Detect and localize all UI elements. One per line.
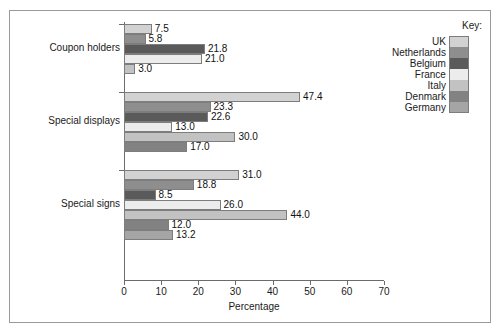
bar: [124, 112, 208, 122]
legend-item-label: Belgium: [410, 58, 449, 69]
legend-title: Key:: [422, 20, 482, 31]
x-axis-tick: [273, 281, 274, 285]
bar: [124, 122, 172, 132]
legend-color-swatch: [449, 80, 469, 91]
legend-color-swatch: [449, 36, 469, 47]
x-axis-tick: [161, 281, 162, 285]
bar-value-label: 47.4: [303, 91, 322, 102]
x-axis-tick-label: 20: [183, 286, 213, 297]
legend-item: Netherlands: [392, 47, 469, 58]
legend-item: France: [392, 69, 469, 80]
bar: [124, 34, 146, 44]
x-axis-tick: [310, 281, 311, 285]
x-axis-tick-label: 0: [109, 286, 139, 297]
bar: [124, 44, 205, 54]
category-label: Coupon holders: [0, 42, 120, 53]
bar-value-label: 13.2: [176, 229, 195, 240]
bar: [124, 170, 239, 180]
category-label: Special displays: [0, 115, 120, 126]
legend-item: Italy: [392, 80, 469, 91]
legend-color-swatch: [449, 102, 469, 113]
y-axis-tick: [119, 92, 124, 93]
legend-item-label: Denmark: [405, 91, 449, 102]
x-axis-title: Percentage: [124, 301, 384, 312]
x-axis-tick: [235, 281, 236, 285]
x-axis-tick: [124, 281, 125, 285]
legend-color-swatch: [449, 47, 469, 58]
bar-value-label: 31.0: [242, 169, 261, 180]
x-axis-tick-label: 30: [220, 286, 250, 297]
bar-value-label: 22.6: [211, 111, 230, 122]
bar-value-label: 3.0: [138, 63, 152, 74]
bar: [124, 220, 169, 230]
chart-page: Percentage 0102030405060707.55.821.821.0…: [0, 0, 501, 333]
y-axis-tick: [119, 170, 124, 171]
legend-item-label: Netherlands: [392, 47, 449, 58]
bar-value-label: 18.8: [197, 179, 216, 190]
legend-item: Belgium: [392, 58, 469, 69]
x-axis-tick: [198, 281, 199, 285]
x-axis-tick-label: 40: [258, 286, 288, 297]
bar-value-label: 5.8: [149, 33, 163, 44]
bar-value-label: 30.0: [238, 131, 257, 142]
legend-item-label: France: [415, 69, 449, 80]
bar: [124, 54, 202, 64]
bar: [124, 230, 173, 240]
legend-color-swatch: [449, 91, 469, 102]
x-axis-tick: [347, 281, 348, 285]
legend-item: UK: [392, 36, 469, 47]
bar-value-label: 13.0: [175, 121, 194, 132]
x-axis-tick-label: 60: [332, 286, 362, 297]
legend-item: Germany: [392, 102, 469, 113]
x-axis-tick-label: 10: [146, 286, 176, 297]
bar-value-label: 26.0: [224, 199, 243, 210]
bar: [124, 64, 135, 74]
bar: [124, 102, 211, 112]
bar-value-label: 44.0: [290, 209, 309, 220]
legend-item-label: UK: [432, 36, 449, 47]
legend-item: Denmark: [392, 91, 469, 102]
bar-value-label: 17.0: [190, 141, 209, 152]
bar: [124, 200, 221, 210]
legend-color-swatch: [449, 69, 469, 80]
bar: [124, 132, 235, 142]
y-axis-tick: [119, 24, 124, 25]
legend-item-label: Germany: [405, 102, 449, 113]
x-axis-tick-label: 50: [295, 286, 325, 297]
bar-value-label: 8.5: [159, 189, 173, 200]
bar: [124, 190, 156, 200]
bar: [124, 210, 287, 220]
x-axis-tick-label: 70: [369, 286, 399, 297]
legend-color-swatch: [449, 58, 469, 69]
category-label: Special signs: [0, 198, 120, 209]
bar-value-label: 21.0: [205, 53, 224, 64]
legend-item-label: Italy: [428, 80, 449, 91]
x-axis-line: [124, 280, 384, 281]
bar: [124, 92, 300, 102]
x-axis-tick: [384, 281, 385, 285]
legend-items: UKNetherlandsBelgiumFranceItalyDenmarkGe…: [392, 36, 469, 113]
bar: [124, 142, 187, 152]
